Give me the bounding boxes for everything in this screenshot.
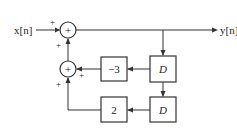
bottom-adder-right-sign: +	[79, 70, 84, 80]
arrowhead-icon	[161, 50, 166, 56]
bottom-adder-bottom-sign: +	[56, 79, 61, 89]
arrowhead-icon	[66, 38, 71, 44]
top-adder-left-sign: +	[50, 17, 55, 27]
top-adder-bottom-sign: +	[56, 40, 61, 50]
delay-label: D	[158, 63, 167, 75]
input-signal-label: x[n]	[14, 24, 32, 36]
output-signal-label: y[n]	[220, 24, 237, 36]
gain2-to-adder-line	[68, 78, 101, 110]
arrowhead-icon	[127, 108, 133, 113]
adder-plus-icon: +	[65, 24, 71, 36]
arrowhead-icon	[161, 91, 166, 97]
delay-block-1: D	[150, 56, 176, 82]
arrowhead-icon	[127, 67, 133, 72]
adder-plus-icon: +	[65, 63, 71, 75]
block-diagram: x[n] + + y[n] D −3 + + + D	[0, 0, 237, 130]
arrowhead-icon	[66, 77, 71, 83]
arrowhead-icon	[55, 28, 60, 33]
delay-label: D	[158, 104, 167, 116]
gain-label: −3	[108, 63, 120, 75]
delay-block-2: D	[150, 97, 176, 122]
adder-bottom: +	[60, 61, 76, 77]
adder-top: +	[60, 22, 76, 38]
gain-block-neg3: −3	[101, 57, 127, 81]
input-label: x[n]	[14, 24, 32, 36]
gain-label: 2	[111, 104, 117, 116]
arrowhead-icon	[212, 28, 218, 33]
gain-block-2: 2	[101, 97, 127, 122]
